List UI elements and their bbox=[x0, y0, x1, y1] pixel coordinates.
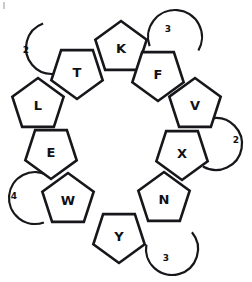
pentagon-label: E bbox=[47, 145, 56, 160]
arc-label: 2 bbox=[233, 135, 239, 145]
arc-label: 3 bbox=[165, 24, 171, 34]
arc-annotation: 3 bbox=[146, 232, 198, 275]
pentagon-label: N bbox=[159, 192, 170, 207]
pentagon-node-w[interactable]: W bbox=[42, 173, 93, 222]
pentagon-label: V bbox=[190, 98, 200, 113]
pentagon-label: W bbox=[61, 193, 75, 208]
pentagons-group: KFVXNYWELT bbox=[12, 21, 220, 263]
arc-annotation: 3 bbox=[148, 10, 202, 51]
pentagon-label: T bbox=[73, 65, 82, 80]
arc-label: 2 bbox=[23, 45, 29, 55]
arc-stroke bbox=[146, 232, 198, 275]
pentagon-node-y[interactable]: Y bbox=[93, 214, 144, 263]
arc-label: 3 bbox=[163, 253, 169, 263]
pentagon-label: Y bbox=[113, 229, 124, 244]
pentagon-ring-svg: 23234 KFVXNYWELT bbox=[0, 0, 252, 282]
arc-label: 4 bbox=[11, 191, 17, 201]
pentagon-label: X bbox=[177, 146, 187, 161]
diagram-canvas: 23234 KFVXNYWELT bbox=[0, 0, 252, 282]
pentagon-label: L bbox=[34, 98, 42, 113]
arc-stroke bbox=[148, 10, 202, 51]
pentagon-label: K bbox=[116, 41, 127, 56]
arc-annotation: 4 bbox=[9, 172, 48, 224]
corner-artifact bbox=[3, 2, 5, 9]
pentagon-label: F bbox=[154, 67, 163, 82]
